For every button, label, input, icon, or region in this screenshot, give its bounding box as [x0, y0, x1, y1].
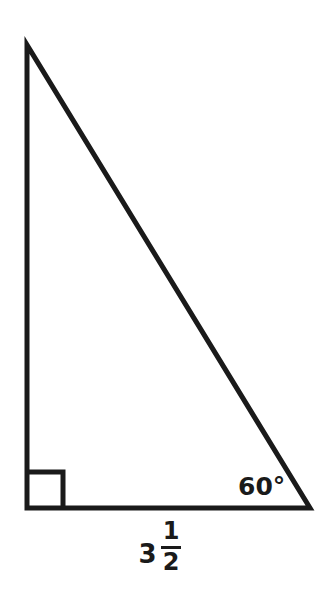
fraction-numerator: 1 — [161, 519, 182, 544]
mixed-number: 3 1 2 — [139, 519, 182, 575]
base-length-label: 3 1 2 — [0, 519, 328, 575]
triangle-outline — [27, 45, 310, 508]
right-angle-marker-icon — [27, 472, 63, 508]
triangle-figure: 60° 3 1 2 — [0, 0, 328, 589]
fraction-denominator: 2 — [161, 550, 182, 575]
mixed-number-whole: 3 — [139, 541, 157, 567]
angle-label: 60° — [238, 474, 285, 499]
fraction: 1 2 — [161, 519, 182, 575]
